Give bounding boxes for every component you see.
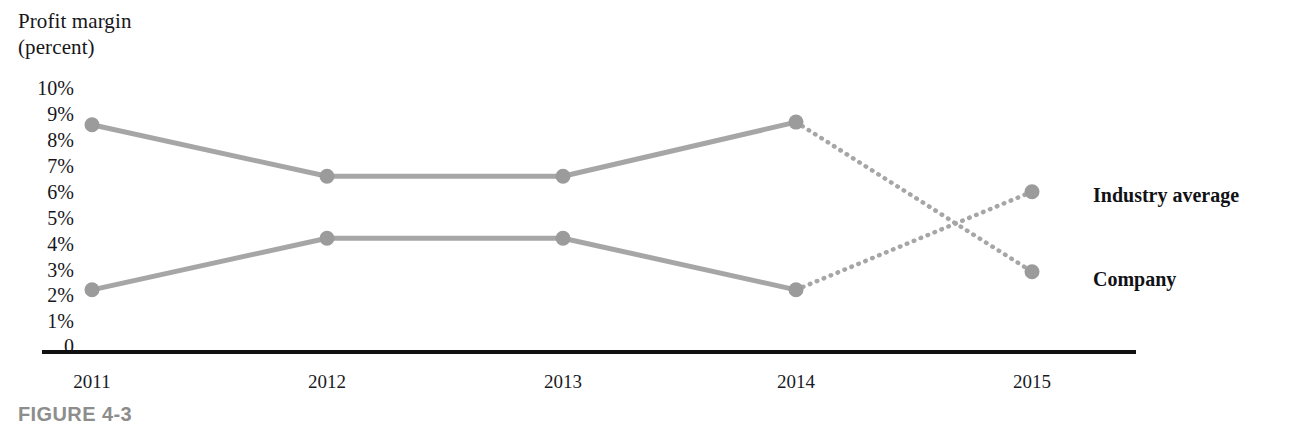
x-tick-2013: 2013 xyxy=(503,372,623,391)
figure-caption: FIGURE 4-3 xyxy=(18,403,132,426)
figure-container: Profit margin (percent) 10% 9% 8% 7% 6% … xyxy=(0,0,1305,445)
x-tick-2015: 2015 xyxy=(972,372,1092,391)
series-line-solid-0 xyxy=(92,122,796,176)
series-label-industry-average: Industry average xyxy=(1093,185,1239,205)
data-point-marker xyxy=(1025,184,1040,199)
x-tick-2014: 2014 xyxy=(736,372,856,391)
data-point-marker xyxy=(85,117,100,132)
data-point-marker xyxy=(556,231,571,246)
x-tick-2012: 2012 xyxy=(267,372,387,391)
data-point-marker xyxy=(320,169,335,184)
plot-area xyxy=(0,0,1305,445)
data-point-marker xyxy=(556,169,571,184)
data-point-marker xyxy=(789,115,804,130)
series-line-dotted-0 xyxy=(796,122,1032,272)
data-point-marker xyxy=(789,282,804,297)
series-line-dotted-1 xyxy=(796,192,1032,290)
series-label-company: Company xyxy=(1093,269,1176,289)
data-point-marker xyxy=(1025,264,1040,279)
data-point-marker xyxy=(320,231,335,246)
x-tick-2011: 2011 xyxy=(32,372,152,391)
data-point-marker xyxy=(85,282,100,297)
series-line-solid-1 xyxy=(92,238,796,290)
